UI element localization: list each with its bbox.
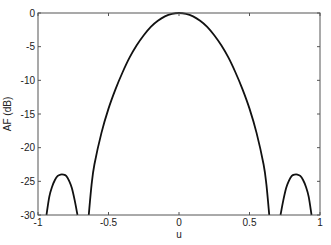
y-tick-label: 0	[29, 8, 35, 19]
x-axis-label: u	[176, 229, 182, 240]
y-tick-label: -15	[21, 109, 36, 120]
y-tick-label: -25	[21, 176, 36, 187]
x-tick-label: 1	[317, 217, 323, 228]
y-axis-label: AF (dB)	[2, 97, 13, 131]
y-tick-label: -30	[21, 210, 36, 221]
x-tick-label: 0	[176, 217, 182, 228]
y-tick-label: -10	[21, 75, 36, 86]
chart: -1-0.500.51 0-5-10-15-20-25-30 u AF (dB)	[0, 0, 331, 245]
y-tick-label: -20	[21, 142, 36, 153]
x-tick-label: -0.5	[100, 217, 118, 228]
x-tick-label: 0.5	[243, 217, 257, 228]
axes-background	[38, 13, 320, 215]
y-tick-label: -5	[26, 41, 35, 52]
